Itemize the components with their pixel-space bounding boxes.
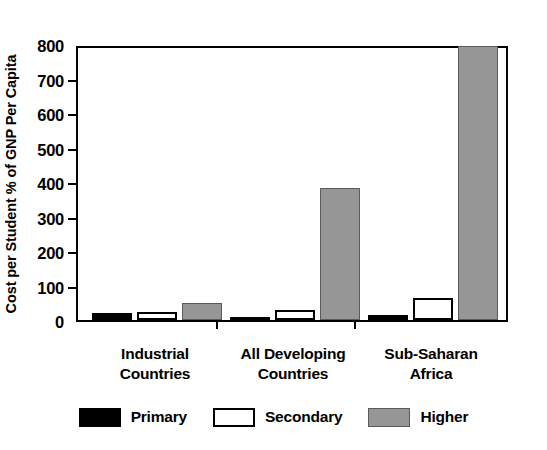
- x-axis-separator-1: [216, 320, 218, 329]
- y-tick-label: 600: [8, 107, 64, 124]
- chart-legend: PrimarySecondaryHigher: [0, 402, 547, 432]
- x-axis-separator-2: [354, 320, 356, 329]
- y-tick-label: 800: [8, 38, 64, 55]
- category-label-line-1: Sub-Saharan: [341, 344, 521, 364]
- bar-primary-group-3: [368, 315, 408, 320]
- legend-swatch-higher-icon: [368, 408, 410, 427]
- legend-swatch-secondary-icon: [213, 408, 255, 427]
- legend-swatch-primary-icon: [79, 408, 121, 427]
- bar-primary-group-2: [230, 317, 270, 320]
- category-label-3: Sub-SaharanAfrica: [341, 344, 521, 385]
- legend-label-primary: Primary: [131, 408, 187, 426]
- legend-label-higher: Higher: [420, 408, 468, 426]
- y-tick-label: 200: [8, 245, 64, 262]
- bar-secondary-group-2: [275, 310, 315, 320]
- y-tick-label: 0: [8, 314, 64, 331]
- plot-inner: [78, 48, 506, 320]
- bar-chart-figure: Cost per Student % of GNP Per Capita 800…: [0, 0, 547, 450]
- y-tick-label: 300: [8, 210, 64, 227]
- bar-secondary-group-1: [137, 312, 177, 320]
- legend-item-secondary[interactable]: Secondary: [213, 408, 342, 427]
- bar-higher-group-2: [320, 188, 360, 320]
- bar-secondary-group-3: [413, 298, 453, 320]
- legend-item-higher[interactable]: Higher: [368, 408, 468, 427]
- plot-area: [76, 46, 508, 322]
- y-tick-label: 700: [8, 72, 64, 89]
- bar-primary-group-1: [92, 313, 132, 320]
- y-tick-label: 500: [8, 141, 64, 158]
- y-tick-label: 400: [8, 176, 64, 193]
- legend-label-secondary: Secondary: [265, 408, 342, 426]
- bar-higher-group-1: [182, 303, 222, 320]
- legend-item-primary[interactable]: Primary: [79, 408, 187, 427]
- bar-higher-group-3: [458, 46, 498, 320]
- category-label-line-2: Africa: [341, 364, 521, 384]
- y-tick-label: 100: [8, 279, 64, 296]
